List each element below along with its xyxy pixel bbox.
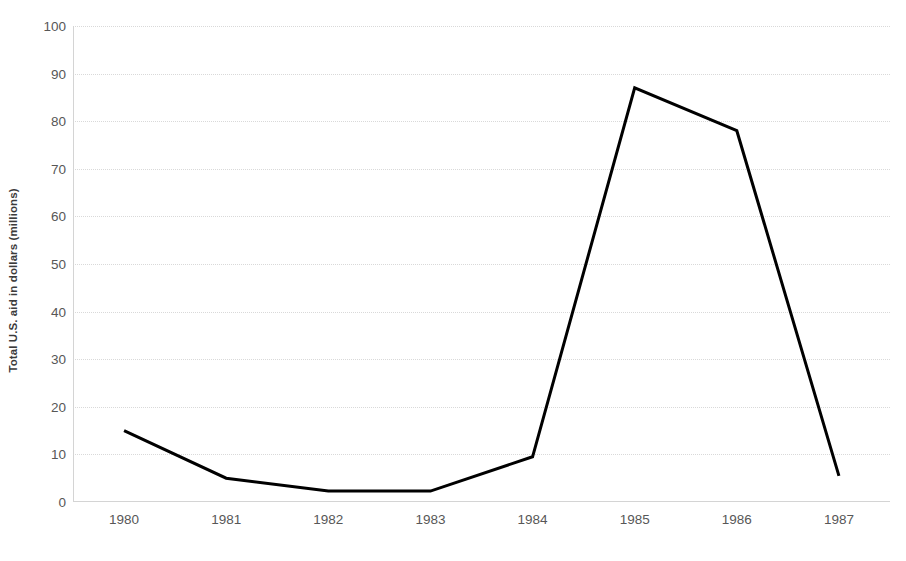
y-tick-label-60: 60 (26, 209, 66, 224)
series-line-total-us-aid (73, 26, 890, 502)
y-tick-label-40: 40 (26, 304, 66, 319)
y-tick-label-100: 100 (26, 19, 66, 34)
y-tick-label-20: 20 (26, 399, 66, 414)
x-tick-label-1981: 1981 (211, 512, 241, 527)
x-tick-label-1987: 1987 (824, 512, 854, 527)
y-tick-label-80: 80 (26, 114, 66, 129)
y-axis-tick-labels: 0102030405060708090100 (26, 0, 66, 561)
x-tick-label-1982: 1982 (313, 512, 343, 527)
y-tick-label-30: 30 (26, 352, 66, 367)
y-tick-label-0: 0 (26, 495, 66, 510)
x-tick-label-1986: 1986 (722, 512, 752, 527)
x-tick-label-1984: 1984 (518, 512, 548, 527)
y-tick-label-10: 10 (26, 447, 66, 462)
y-tick-label-50: 50 (26, 257, 66, 272)
x-tick-label-1980: 1980 (109, 512, 139, 527)
x-tick-label-1983: 1983 (415, 512, 445, 527)
y-axis-title: Total U.S. aid in dollars (millions) (0, 0, 26, 561)
plot-area (73, 26, 890, 502)
line-chart: Total U.S. aid in dollars (millions) 010… (0, 0, 906, 561)
x-tick-label-1985: 1985 (620, 512, 650, 527)
y-tick-label-70: 70 (26, 161, 66, 176)
y-tick-label-90: 90 (26, 66, 66, 81)
x-axis-tick-labels: 19801981198219831984198519861987 (73, 512, 890, 542)
